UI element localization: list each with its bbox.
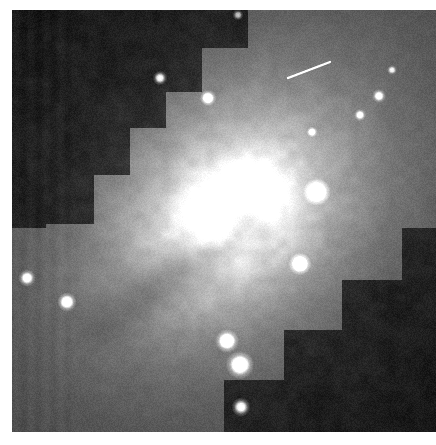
astronomical-image-frame xyxy=(12,10,436,432)
screenshot-root xyxy=(0,0,436,445)
galaxy-image xyxy=(12,10,436,432)
